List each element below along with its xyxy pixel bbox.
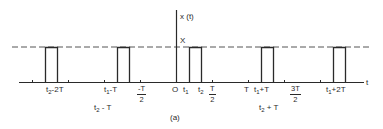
tick-label-origin: O	[172, 86, 178, 94]
tick-label-t2: t2	[198, 86, 204, 95]
tick-label-3T-over-2: 3T2	[290, 85, 301, 103]
amplitude-label: X	[180, 37, 185, 45]
y-axis-label: x (t)	[180, 13, 194, 21]
tick-label-T-over-2: T2	[209, 85, 216, 103]
tick-label-T: T	[244, 86, 249, 94]
pulse-0	[190, 48, 202, 83]
tick-label-t1: t1	[183, 86, 189, 95]
tick-label-t2-plus-T: t2 + T	[259, 104, 278, 113]
pulse-1	[262, 48, 274, 83]
tick-label-t2-minus-T: t2 - T	[94, 104, 111, 113]
pulses	[46, 48, 346, 83]
tick-label-t1-plus-2T: t1+2T	[326, 86, 346, 95]
tick-label-t2-minus-2T: t2-2T	[46, 86, 64, 95]
tick-label-neg-T-over-2: -T2	[137, 85, 146, 103]
tick-label-t1-minus-T: t1-T	[104, 86, 117, 95]
x-axis-label: t	[366, 79, 368, 87]
pulse-n-1	[118, 48, 130, 83]
pulse-2	[334, 48, 346, 83]
tick-label-t1-plus-T: t1+T	[254, 86, 269, 95]
pulse-train-figure: x (t) X t t2-2T t1-T -T2 O t1 t2 T2 T t1…	[0, 0, 383, 129]
pulse-n-2	[46, 48, 58, 83]
figure-caption: (a)	[170, 114, 180, 122]
